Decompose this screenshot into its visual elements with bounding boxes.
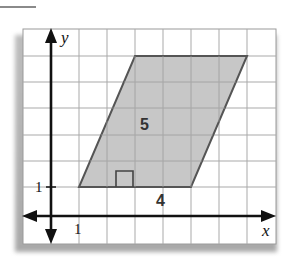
x-tick-label: 1: [74, 222, 82, 237]
x-axis-label: x: [262, 222, 270, 239]
y-tick-label: 1: [35, 180, 43, 195]
y-axis-label: y: [61, 29, 69, 46]
coordinate-grid: [0, 0, 292, 276]
base-label: 4: [156, 193, 165, 209]
height-label: 5: [140, 117, 149, 133]
